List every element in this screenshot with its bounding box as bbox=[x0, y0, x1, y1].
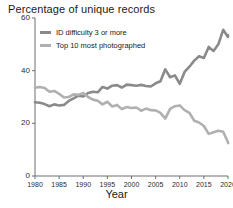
data-line-series-1 bbox=[35, 87, 228, 143]
legend-label-1: Top 10 most photographed bbox=[56, 41, 145, 50]
legend-item-0: ID difficulty 3 or more bbox=[40, 27, 145, 38]
x-axis-tick-label: 2010 bbox=[168, 181, 192, 189]
x-axis-tick-label: 2015 bbox=[192, 181, 216, 189]
y-axis-tick-label: 20 bbox=[14, 118, 30, 127]
x-axis-tick-label: 1990 bbox=[71, 181, 95, 189]
x-axis-tick-label: 2020 bbox=[216, 181, 233, 189]
y-axis-tick-label: 60 bbox=[14, 13, 30, 22]
x-axis-tick-label: 2005 bbox=[144, 181, 168, 189]
x-axis-tick-label: 1995 bbox=[95, 181, 119, 189]
y-axis-tick-label: 40 bbox=[14, 66, 30, 75]
x-axis-tick-label: 2000 bbox=[120, 181, 144, 189]
legend-swatch-icon-0 bbox=[40, 31, 51, 34]
x-axis-tick-label: 1985 bbox=[47, 181, 71, 189]
chart-legend: ID difficulty 3 or more Top 10 most phot… bbox=[40, 27, 145, 53]
y-axis-tick-label: 0 bbox=[14, 171, 30, 180]
legend-swatch-icon-1 bbox=[40, 44, 51, 47]
x-axis-tick-label: 1980 bbox=[23, 181, 47, 189]
legend-label-0: ID difficulty 3 or more bbox=[56, 28, 127, 37]
legend-item-1: Top 10 most photographed bbox=[40, 40, 145, 51]
x-axis-title: Year bbox=[0, 188, 233, 201]
chart-container: Percentage of unique records ID difficul… bbox=[0, 0, 233, 208]
